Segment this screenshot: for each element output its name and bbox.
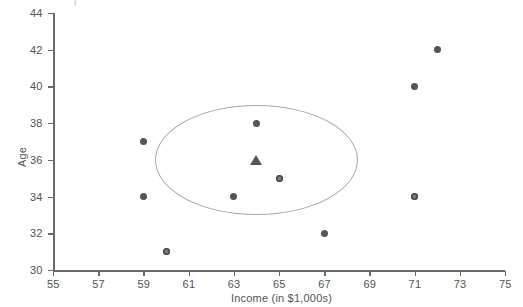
cluster-centroid-marker bbox=[250, 155, 262, 165]
data-point bbox=[321, 230, 328, 237]
data-point bbox=[253, 120, 260, 127]
data-point bbox=[163, 248, 170, 255]
data-point bbox=[276, 175, 283, 182]
data-point bbox=[411, 193, 418, 200]
data-point bbox=[140, 193, 147, 200]
plot-layer bbox=[0, 0, 523, 307]
data-point bbox=[411, 83, 418, 90]
data-point bbox=[140, 138, 147, 145]
scatter-plot: | 30 32 34 36 38 40 42 44 55 57 59 61 63… bbox=[0, 0, 523, 307]
data-point bbox=[434, 46, 441, 53]
